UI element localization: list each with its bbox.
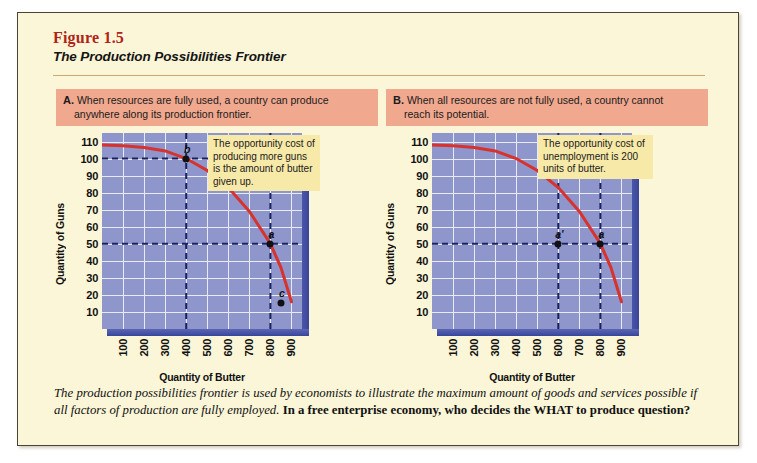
x-tick-label: 300 [159,339,171,356]
panel-b-caption: B. When all resources are not fully used… [386,89,708,126]
data-point [277,300,284,307]
y-tick-label: 100 [411,153,428,165]
y-tick-label: 90 [416,170,428,182]
chart-b-edge-bottom [437,329,639,336]
chart-b-x-ticks: 100200300400500600700800900 [432,339,642,373]
x-tick-label: 800 [594,339,606,356]
figure-title: The Production Possibilities Frontier [53,48,693,65]
chart-b-y-ticks: 102030405060708090100110 [398,133,430,329]
figure-panel: Figure 1.5 The Production Possibilities … [17,12,739,446]
data-point-label: b [184,143,190,155]
y-tick-label: 10 [416,306,428,318]
panel-b-letter: B. [393,94,404,106]
y-tick-label: 40 [86,255,98,267]
chart-a-x-axis-label: Quantity of Butter [102,371,302,383]
y-tick-label: 80 [416,187,428,199]
panel-b-caption-line1: When all resources are not fully used, a… [407,94,663,106]
data-point [597,240,604,247]
y-tick-label: 70 [416,204,428,216]
x-tick-label: 700 [573,339,585,356]
x-tick-label: 900 [285,339,297,356]
panel-b-callout: The opportunity cost of unemployment is … [538,135,653,179]
x-tick-label: 200 [138,339,150,356]
header-divider [53,75,705,76]
x-tick-label: 400 [180,339,192,356]
panel-b-caption-line2: reach its potential. [393,108,701,122]
x-tick-label: 600 [222,339,234,356]
x-tick-label: 100 [117,339,129,356]
y-tick-label: 90 [86,170,98,182]
panel-b: B. When all resources are not fully used… [386,89,708,379]
y-tick-label: 30 [416,272,428,284]
chart-b-y-axis-label: Quantity of Guns [384,203,398,285]
x-tick-label: 500 [531,339,543,356]
chart-a-edge-bottom [107,329,309,336]
y-tick-label: 50 [416,238,428,250]
y-tick-label: 100 [81,153,98,165]
y-tick-label: 80 [86,187,98,199]
y-tick-label: 20 [416,289,428,301]
x-tick-label: 400 [510,339,522,356]
y-tick-label: 110 [411,136,428,148]
chart-a-y-axis-label: Quantity of Guns [54,203,68,285]
x-tick-label: 800 [264,339,276,356]
panel-a-callout: The opportunity cost of producing more g… [208,135,320,191]
figure-number: Figure 1.5 [53,29,693,47]
chart-a-y-ticks: 102030405060708090100110 [68,133,100,329]
chart-a-x-ticks: 100200300400500600700800900 [102,339,312,373]
x-tick-label: 900 [615,339,627,356]
chart-b-x-axis-label: Quantity of Butter [432,371,632,383]
panel-a-letter: A. [63,94,74,106]
data-point [267,240,274,247]
x-tick-label: 700 [243,339,255,356]
y-tick-label: 10 [86,306,98,318]
panel-a: A. When resources are fully used, a coun… [56,89,378,379]
y-tick-label: 70 [86,204,98,216]
y-tick-label: 50 [86,238,98,250]
panel-a-caption-line2: anywhere along its production frontier. [63,108,371,122]
y-tick-label: 40 [416,255,428,267]
y-tick-label: 20 [86,289,98,301]
y-tick-label: 30 [86,272,98,284]
data-point [183,155,190,162]
y-tick-label: 60 [86,221,98,233]
x-tick-label: 300 [489,339,501,356]
chart-b: Quantity of Guns 10203040506070809010011… [386,133,708,379]
caption-bold-question: In a free enterprise economy, who decide… [283,403,691,417]
data-point-label: a [598,228,604,240]
x-tick-label: 200 [468,339,480,356]
figure-header: Figure 1.5 The Production Possibilities … [53,29,693,65]
chart-a: Quantity of Guns 10203040506070809010011… [56,133,378,379]
x-tick-label: 600 [552,339,564,356]
figure-bottom-caption: The production possibilities frontier is… [54,385,706,418]
panel-a-caption: A. When resources are fully used, a coun… [56,89,378,126]
y-tick-label: 110 [81,136,98,148]
y-tick-label: 60 [416,221,428,233]
panel-a-caption-line1: When resources are fully used, a country… [77,94,329,106]
data-point [555,240,562,247]
x-tick-label: 500 [201,339,213,356]
data-point-label: a' [555,228,563,240]
data-point-label: a [268,228,274,240]
data-point-label: c [279,287,285,299]
x-tick-label: 100 [447,339,459,356]
